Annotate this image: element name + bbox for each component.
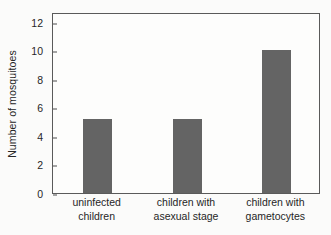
- plot-area: [53, 14, 319, 193]
- x-axis-tick-label-line: children with: [246, 196, 306, 210]
- x-axis-tick-label-line: children with: [154, 196, 219, 210]
- y-axis-tick-mark: [53, 52, 57, 53]
- y-axis-tick-mark: [53, 166, 57, 167]
- y-axis-label: Number of mosquitoes: [6, 50, 18, 158]
- y-axis-tick-label: 4: [37, 131, 43, 143]
- y-axis-tick-labels: 024681012: [24, 13, 47, 194]
- x-axis-tick-label-line: gametocytes: [246, 210, 306, 224]
- x-axis-tick-label-line: children: [72, 210, 120, 224]
- y-axis-tick-label: 10: [31, 45, 43, 57]
- x-axis-tick-label-line: asexual stage: [154, 210, 219, 224]
- y-axis-tick-mark: [53, 137, 57, 138]
- plot-axes: [52, 13, 320, 194]
- y-axis-tick-mark: [53, 23, 57, 24]
- x-axis-tick-labels: uninfectedchildrenchildren withasexual s…: [52, 196, 320, 235]
- x-axis-tick-label: children withgametocytes: [246, 196, 306, 223]
- bar: [83, 119, 112, 193]
- y-axis-tick-label: 6: [37, 102, 43, 114]
- y-axis-tick-mark: [53, 80, 57, 81]
- y-axis-tick-label: 8: [37, 74, 43, 86]
- x-axis-tick-label-line: uninfected: [72, 196, 120, 210]
- y-axis-tick-label: 2: [37, 159, 43, 171]
- y-axis-tick-label: 0: [37, 188, 43, 200]
- x-axis-tick-label: children withasexual stage: [154, 196, 219, 223]
- bar: [262, 50, 291, 193]
- bar-chart-figure: Number of mosquitoes 024681012 uninfecte…: [0, 0, 331, 235]
- y-axis-tick-mark: [53, 109, 57, 110]
- bar: [173, 119, 202, 193]
- x-axis-tick-label: uninfectedchildren: [72, 196, 120, 223]
- y-axis-label-container: Number of mosquitoes: [0, 13, 24, 194]
- y-axis-tick-label: 12: [31, 17, 43, 29]
